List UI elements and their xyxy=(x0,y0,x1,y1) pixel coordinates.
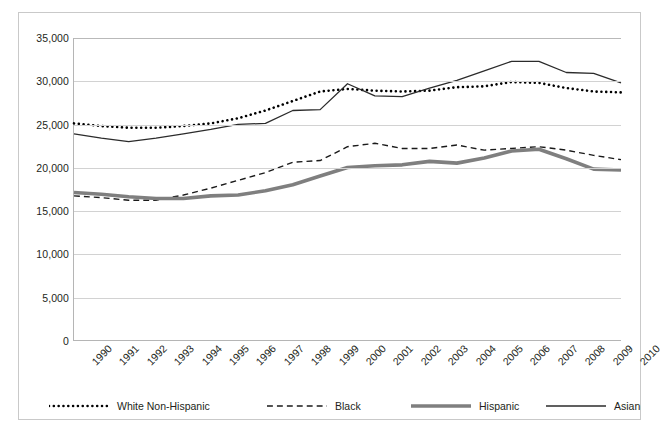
x-tick-label: 2002 xyxy=(419,343,443,367)
y-tick-label: 25,000 xyxy=(21,120,69,131)
gridline xyxy=(74,211,621,212)
x-tick-label: 1992 xyxy=(145,343,169,367)
series-line xyxy=(74,82,621,128)
y-tick-label: 0 xyxy=(21,336,69,347)
x-tick-label: 1997 xyxy=(282,343,306,367)
legend-line-icon xyxy=(49,400,109,412)
x-tick-label: 1999 xyxy=(336,343,360,367)
x-tick-label: 1996 xyxy=(254,343,278,367)
y-tick-label: 5,000 xyxy=(21,293,69,304)
y-tick-label: 30,000 xyxy=(21,76,69,87)
x-tick-label: 1995 xyxy=(227,343,251,367)
gridline xyxy=(74,81,621,82)
x-tick-label: 2008 xyxy=(583,343,607,367)
x-tick-label: 1994 xyxy=(199,343,223,367)
x-axis: 1990199119921993199419951996199719981999… xyxy=(73,343,621,395)
legend-label: Asian xyxy=(614,400,640,412)
legend-label: Black xyxy=(335,400,361,412)
legend-line-icon xyxy=(546,400,606,412)
legend-label: Hispanic xyxy=(479,400,519,412)
legend-line-icon xyxy=(267,400,327,412)
gridline xyxy=(74,168,621,169)
legend-item[interactable]: Hispanic xyxy=(411,395,519,417)
y-tick-label: 20,000 xyxy=(21,163,69,174)
plot-wrapper: 35,00030,00025,00020,00015,00010,0005,00… xyxy=(19,13,640,419)
chart-figure: 35,00030,00025,00020,00015,00010,0005,00… xyxy=(18,12,641,420)
x-tick-label: 2007 xyxy=(556,343,580,367)
gridline xyxy=(74,38,621,39)
gridline xyxy=(74,254,621,255)
y-tick-label: 10,000 xyxy=(21,249,69,260)
chart-legend: White Non-HispanicBlackHispanicAsian xyxy=(19,395,642,421)
gridline xyxy=(74,125,621,126)
series-layer xyxy=(74,38,621,340)
series-line xyxy=(74,61,621,141)
x-tick-label: 2004 xyxy=(473,343,497,367)
plot-area xyxy=(73,38,621,341)
legend-item[interactable]: White Non-Hispanic xyxy=(49,395,210,417)
x-tick-label: 1993 xyxy=(172,343,196,367)
x-tick-label: 2003 xyxy=(446,343,470,367)
x-tick-label: 2001 xyxy=(391,343,415,367)
x-tick-label: 1990 xyxy=(90,343,114,367)
x-tick-label: 1998 xyxy=(309,343,333,367)
legend-item[interactable]: Black xyxy=(267,395,361,417)
y-tick-label: 15,000 xyxy=(21,206,69,217)
y-axis: 35,00030,00025,00020,00015,00010,0005,00… xyxy=(19,38,69,341)
x-tick-label: 2009 xyxy=(610,343,634,367)
legend-line-icon xyxy=(411,400,471,412)
x-tick-label: 1991 xyxy=(117,343,141,367)
legend-item[interactable]: Asian xyxy=(546,395,640,417)
legend-label: White Non-Hispanic xyxy=(117,400,210,412)
x-tick-label: 2005 xyxy=(501,343,525,367)
x-tick-label: 2000 xyxy=(364,343,388,367)
y-tick-label: 35,000 xyxy=(21,33,69,44)
x-tick-label: 2006 xyxy=(528,343,552,367)
gridline xyxy=(74,298,621,299)
series-line xyxy=(74,149,621,198)
x-tick-label: 2010 xyxy=(638,343,660,367)
series-line xyxy=(74,143,621,200)
